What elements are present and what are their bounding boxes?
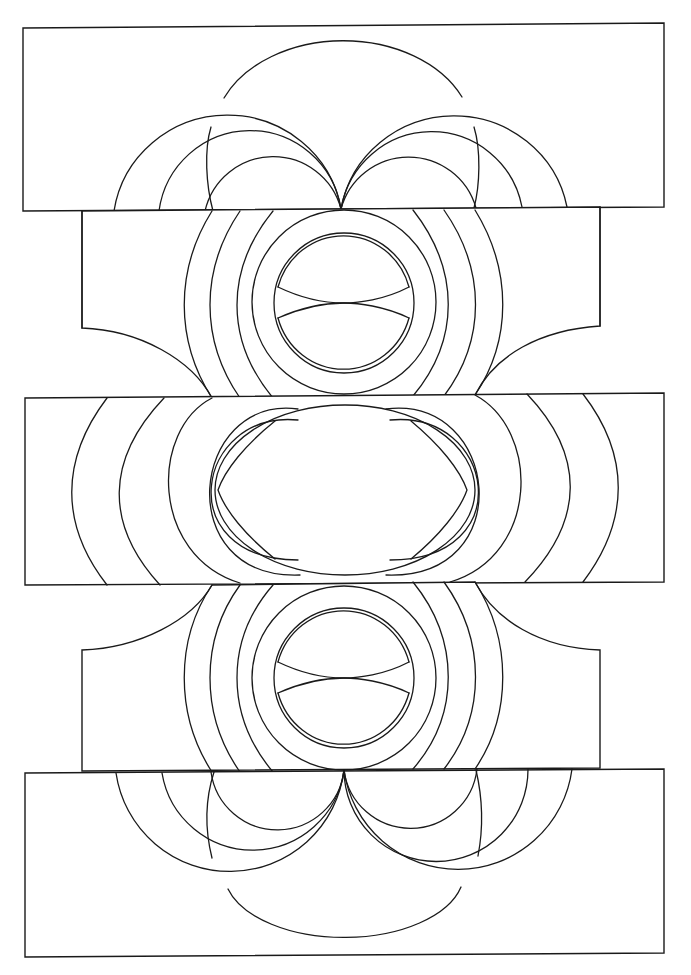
- upper-middle-band: [82, 207, 600, 398]
- lower-middle-band: [82, 582, 600, 772]
- bottom-band: [25, 769, 664, 957]
- geometric-drawing: [0, 0, 691, 975]
- center-band: [25, 393, 664, 585]
- top-band: [23, 23, 664, 211]
